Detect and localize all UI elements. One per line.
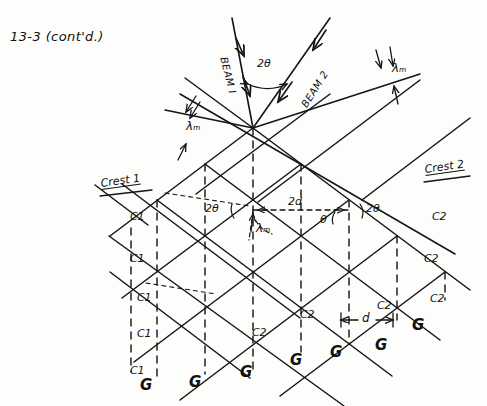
crest1-node-label-4: C1 [130, 365, 144, 376]
beam-angle-label: 2θ [257, 58, 271, 69]
crest2-node-label-0: C2 [432, 211, 446, 222]
diagram-canvas [0, 0, 487, 406]
page-title: 13-3 (cont'd.) [10, 30, 104, 43]
crest2-node-label-2: C2 [430, 293, 444, 304]
crest1-node-label-1: C1 [130, 253, 144, 264]
angle-tick-right [360, 204, 363, 218]
crest1-node-label-3: C1 [137, 328, 151, 339]
lattice-lines-vertical-dashed [131, 128, 445, 376]
grid-node-label-0: G [140, 378, 152, 393]
angle-left-2theta-label: 2θ [205, 203, 219, 214]
sheet-arrow-right [376, 50, 381, 68]
grid-node-label-2: G [240, 365, 252, 380]
diagram-page: 13-3 (cont'd.) BEAM I BEAM 2 2θ λₘ λₘ λₘ… [0, 0, 487, 406]
lambda-top-right-arrows [390, 47, 398, 104]
lambda-center-label: λₘ [256, 222, 271, 234]
angle-center-theta-label: θ [320, 214, 327, 225]
grid-node-label-3: G [290, 353, 302, 368]
grid-node-label-5: G [375, 338, 387, 353]
grid-node-label-4: G [330, 345, 342, 360]
beam-1-ray [232, 18, 253, 128]
angle-tick-center [332, 212, 335, 224]
crest2-node-label-1: C2 [424, 253, 438, 264]
lambda-upper-left-label: λₘ [186, 120, 201, 132]
grid-node-label-1: G [189, 375, 201, 390]
lambda-top-right-label: λₘ [392, 62, 407, 74]
angle-right-2theta-label: 2θ [366, 203, 380, 214]
crest1-node-label-2: C1 [137, 292, 151, 303]
grid-node-label-6: G [412, 318, 424, 333]
crest-underlines [100, 176, 470, 196]
crest2-node-label-5: C2 [252, 327, 266, 338]
crest2-node-label-3: C2 [377, 300, 391, 311]
crest1-node-label-0: C1 [130, 211, 144, 222]
path-difference-label: 2d [288, 196, 302, 207]
d-spacing-label: d [362, 312, 370, 324]
crest2-node-label-4: C2 [300, 309, 314, 320]
crest1-construction-dashes [146, 193, 250, 294]
